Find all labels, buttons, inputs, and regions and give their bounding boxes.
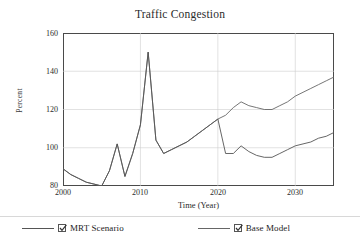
x-tick-label-2020: 2020 (198, 188, 238, 197)
y-tick-label-120: 120 (28, 105, 58, 114)
chart-card: Traffic Congestion Percent 160 140 120 1… (0, 0, 360, 214)
chart-screenshot: Traffic Congestion Percent 160 140 120 1… (0, 0, 360, 250)
legend-row: MRT Scenario Base Model (0, 223, 360, 233)
check-icon (234, 223, 244, 233)
y-tick-label-160: 160 (28, 29, 58, 38)
x-tick-label-2000: 2000 (43, 188, 83, 197)
legend-item-mrt-scenario[interactable]: MRT Scenario (22, 223, 124, 233)
series-line-mrt-scenario (63, 52, 334, 186)
check-icon (58, 223, 68, 233)
chart-title: Traffic Congestion (0, 8, 360, 20)
legend-label-base-model: Base Model (246, 223, 290, 233)
legend: MRT Scenario Base Model (0, 216, 360, 250)
legend-line-swatch-base (198, 228, 230, 229)
x-tick-label-2010: 2010 (120, 188, 160, 197)
plot-area (63, 33, 334, 186)
legend-item-base-model[interactable]: Base Model (198, 223, 290, 233)
y-axis-title: Percent (15, 71, 24, 131)
gridlines (63, 33, 334, 186)
x-tick-label-2030: 2030 (275, 188, 315, 197)
series-line-base-model (63, 52, 334, 186)
y-tick-label-140: 140 (28, 67, 58, 76)
legend-line-swatch-mrt (22, 228, 54, 229)
legend-label-mrt-scenario: MRT Scenario (70, 223, 124, 233)
y-tick-label-100: 100 (28, 143, 58, 152)
checkbox-mrt-scenario[interactable] (58, 224, 66, 232)
checkbox-base-model[interactable] (234, 224, 242, 232)
x-axis-title: Time (Year) (63, 200, 334, 210)
series-lines (63, 52, 334, 186)
